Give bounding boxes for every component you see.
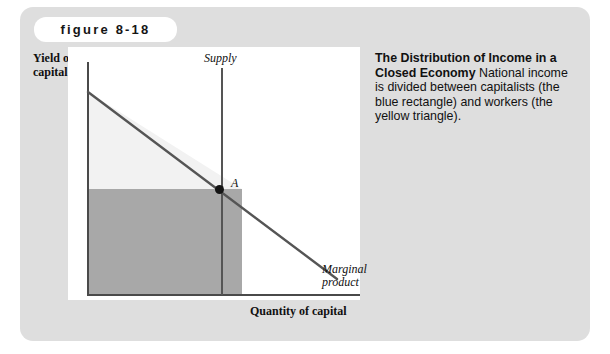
equilibrium-point-a-label: A [231, 176, 238, 191]
figure-number-text: figure 8-18 [34, 17, 177, 42]
marginal-product-curve-label: Marginal product [322, 263, 367, 289]
equilibrium-point-a-marker [215, 185, 224, 194]
x-axis-title: Quantity of capital [250, 304, 347, 319]
figure-panel: figure 8-18 Yield on capital Quantity of… [20, 7, 590, 341]
marginal-product-curve [68, 47, 360, 300]
plot-area: A Supply Marginal product [68, 47, 360, 300]
figure-caption: The Distribution of Income in a Closed E… [375, 51, 575, 124]
figure-number-pill: figure 8-18 [34, 17, 177, 42]
supply-curve-label: Supply [204, 51, 237, 66]
marginal-product-label-line2: product [322, 276, 367, 289]
marginal-product-line-path [88, 92, 337, 279]
